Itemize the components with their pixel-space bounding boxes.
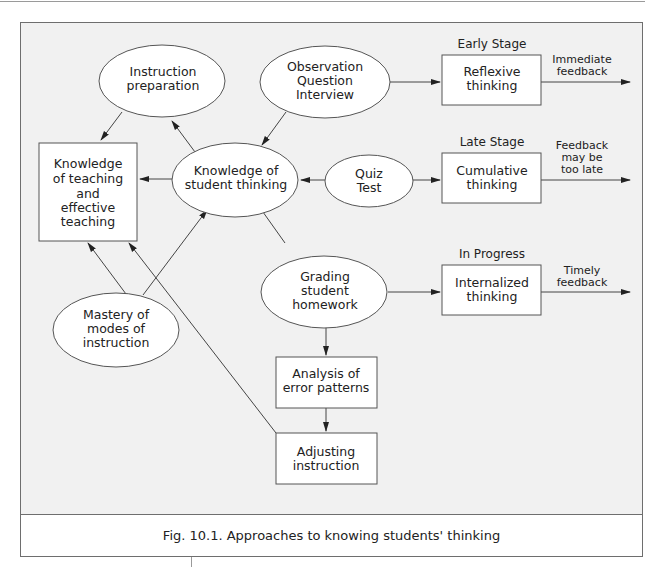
diagram-canvas: Knowledge of teaching and effective teac… <box>0 0 665 567</box>
node-label: Mastery of <box>83 307 150 322</box>
node-grading: Grading student homework <box>261 256 387 328</box>
node-reflexive: Reflexive thinking <box>442 55 541 105</box>
node-label: Instruction <box>130 64 197 79</box>
edge-mastery-to-knowledge-student <box>143 210 207 295</box>
node-label: homework <box>292 297 358 312</box>
node-label: error patterns <box>283 380 370 395</box>
node-label: Reflexive <box>463 64 520 79</box>
feedback-immediate-line2: feedback <box>557 65 608 78</box>
node-label: of teaching <box>53 171 123 186</box>
node-quiz: Quiz Test <box>325 155 413 207</box>
edge-knowledge-student-to-instruction-prep <box>172 121 195 152</box>
node-label: Quiz <box>355 166 383 181</box>
stage-label-late: Late Stage <box>460 135 525 149</box>
node-label: Grading <box>300 269 350 284</box>
feedback-late-line3: too late <box>561 163 603 176</box>
node-instruction-prep: Instruction preparation <box>99 45 225 117</box>
node-label: modes of <box>87 321 146 336</box>
node-label: Test <box>356 180 382 195</box>
node-label: Knowledge of <box>194 163 279 178</box>
node-mastery: Mastery of modes of instruction <box>53 293 179 367</box>
node-label: Internalized <box>455 275 529 290</box>
node-label: student <box>301 283 349 298</box>
node-cumulative: Cumulative thinking <box>442 153 541 203</box>
edge-mastery-to-knowledge-teaching <box>88 243 126 294</box>
node-label: Observation <box>287 59 363 74</box>
node-adjusting: Adjusting instruction <box>276 433 377 484</box>
node-label: thinking <box>467 78 518 93</box>
node-observation: Observation Question Interview <box>260 46 390 118</box>
node-label: Interview <box>296 87 354 102</box>
edge-observation-to-knowledge-student <box>262 112 286 145</box>
node-label: and <box>76 186 100 201</box>
node-knowledge-teaching: Knowledge of teaching and effective teac… <box>39 143 137 241</box>
node-label: thinking <box>467 289 518 304</box>
node-label: teaching <box>61 214 115 229</box>
node-label: instruction <box>293 458 360 473</box>
edge-instruction-prep-to-knowledge-teaching <box>101 112 122 140</box>
node-analysis: Analysis of error patterns <box>276 357 377 408</box>
node-internalized: Internalized thinking <box>442 265 541 315</box>
node-label: student thinking <box>185 177 288 192</box>
stage-label-early: Early Stage <box>458 37 527 51</box>
stage-label-progress: In Progress <box>459 247 525 261</box>
node-knowledge-student: Knowledge of student thinking <box>172 143 298 217</box>
node-label: Adjusting <box>297 444 355 459</box>
node-label: Analysis of <box>292 366 360 381</box>
node-label: thinking <box>467 177 518 192</box>
node-label: Question <box>297 73 353 88</box>
feedback-timely-line2: feedback <box>557 276 608 289</box>
node-label: instruction <box>83 335 150 350</box>
node-label: Cumulative <box>456 163 528 178</box>
node-label: effective <box>61 200 116 215</box>
node-label: preparation <box>127 78 200 93</box>
node-label: Knowledge <box>54 156 123 171</box>
